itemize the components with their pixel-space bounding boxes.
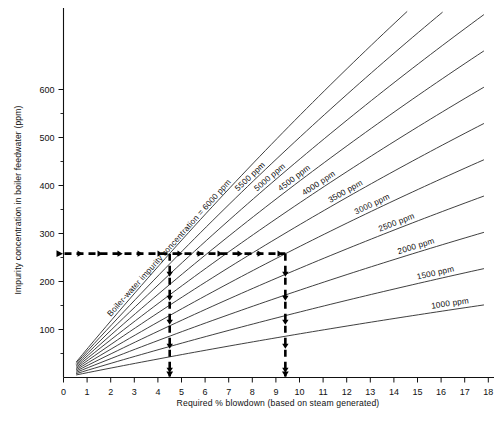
x-tick-label: 5 — [179, 387, 184, 397]
x-tick-label: 7 — [226, 387, 231, 397]
vertical-arrowhead-left — [167, 296, 173, 301]
x-axis-ticks — [64, 378, 489, 383]
x-tick-label: 3 — [132, 387, 137, 397]
x-tick-label: 9 — [273, 387, 278, 397]
x-tick-label: 2 — [108, 387, 113, 397]
x-axis-title: Required % blowdown (based on steam gene… — [177, 398, 380, 408]
vertical-arrowhead-right — [282, 320, 288, 325]
horizontal-arrowhead — [258, 250, 263, 256]
x-axis-tick-labels: 0123456789101112131415161718 — [61, 387, 493, 397]
x-tick-label: 4 — [155, 387, 160, 397]
y-tick-label: 400 — [39, 181, 54, 191]
y-tick-label: 100 — [39, 325, 54, 335]
horizontal-arrowhead — [118, 250, 123, 256]
series-label: 1500 ppm — [416, 264, 455, 281]
y-tick-label: 300 — [39, 229, 54, 239]
vertical-arrowhead-left — [167, 320, 173, 325]
y-axis-title: Impurity concentration in boiler feedwat… — [13, 105, 23, 294]
x-tick-label: 17 — [460, 387, 470, 397]
x-tick-label: 14 — [389, 387, 399, 397]
y-axis-tick-labels: 100200300400500600 — [39, 85, 54, 335]
horizontal-arrowhead — [138, 250, 143, 256]
vertical-arrow-tip-right — [282, 372, 289, 378]
vertical-arrowhead-right — [282, 344, 288, 349]
x-tick-label: 16 — [436, 387, 446, 397]
x-tick-label: 8 — [250, 387, 255, 397]
x-tick-label: 12 — [342, 387, 352, 397]
vertical-arrow-tip-left — [166, 372, 173, 378]
blowdown-chart-figure: 100200300400500600 012345678910111213141… — [0, 0, 502, 431]
data-series-lines — [76, 12, 483, 375]
vertical-arrowhead-right — [282, 296, 288, 301]
series-line — [76, 51, 483, 366]
y-tick-label: 600 — [39, 85, 54, 95]
y-tick-label: 200 — [39, 277, 54, 287]
horizontal-arrowhead — [218, 250, 223, 256]
x-tick-label: 11 — [318, 387, 327, 397]
series-line — [76, 87, 483, 367]
series-label: 2500 ppm — [377, 211, 416, 233]
x-tick-label: 13 — [365, 387, 375, 397]
chart-canvas: 100200300400500600 012345678910111213141… — [0, 0, 502, 431]
y-axis-readout-arrow — [57, 250, 64, 257]
horizontal-arrowhead — [98, 250, 103, 256]
x-tick-label: 10 — [294, 387, 304, 397]
axes — [64, 8, 495, 378]
x-tick-label: 6 — [203, 387, 208, 397]
horizontal-arrowhead — [78, 250, 83, 256]
horizontal-arrowhead — [238, 250, 243, 256]
x-tick-label: 15 — [412, 387, 422, 397]
series-line — [76, 305, 483, 375]
series-label: 1000 ppm — [431, 296, 470, 311]
horizontal-arrowhead — [198, 250, 203, 256]
x-tick-label: 1 — [85, 387, 90, 397]
y-tick-label: 500 — [39, 133, 54, 143]
vertical-arrowhead-right — [282, 272, 288, 277]
x-tick-label: 18 — [483, 387, 493, 397]
series-label: 3500 ppm — [327, 178, 365, 205]
x-tick-label: 0 — [61, 387, 66, 397]
